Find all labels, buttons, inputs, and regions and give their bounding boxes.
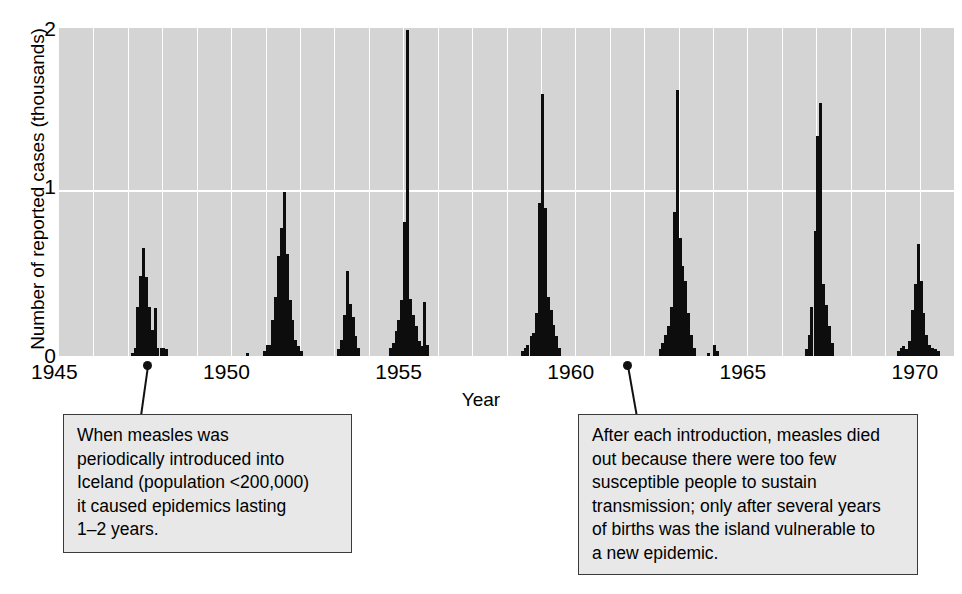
- gridline-year-1961: [610, 28, 611, 356]
- gridline-year-1946: [93, 28, 94, 356]
- measles-epidemic-chart: 2 1 0 Number of reported cases (thousand…: [0, 0, 962, 594]
- bar: [707, 353, 710, 356]
- gridline-year-1965: [747, 28, 748, 356]
- x-tick-1955: 1955: [375, 361, 422, 383]
- annotation-right: After each introduction, measles died ou…: [578, 414, 918, 575]
- gridline-year-1950: [231, 28, 232, 356]
- x-tick-1960: 1960: [547, 361, 594, 383]
- gridline-year-1948: [162, 28, 163, 356]
- bar: [357, 348, 360, 356]
- gridline-year-1951: [266, 28, 267, 356]
- gridline-year-1953: [334, 28, 335, 356]
- annotation-left: When measles was periodically introduced…: [63, 414, 352, 553]
- bar: [693, 348, 696, 356]
- gridline-year-1968: [851, 28, 852, 356]
- gridline-year-1962: [644, 28, 645, 356]
- gridline-year-1960: [575, 28, 576, 356]
- gridline-year-1964: [713, 28, 714, 356]
- gridline-year-1957: [472, 28, 473, 356]
- y-axis-label: Number of reported cases (thousands): [27, 0, 49, 379]
- gridline-year-1969: [885, 28, 886, 356]
- gridline-year-1949: [197, 28, 198, 356]
- x-tick-1965: 1965: [719, 361, 766, 383]
- gridline-year-1956: [438, 28, 439, 356]
- gridline-year-1947: [128, 28, 129, 356]
- bar: [558, 348, 561, 356]
- gridline-year-1966: [782, 28, 783, 356]
- bar: [300, 351, 303, 356]
- bar: [937, 351, 940, 356]
- plot-area: [59, 28, 954, 356]
- bar: [165, 349, 168, 356]
- gridline-year-1952: [300, 28, 301, 356]
- bar: [716, 351, 719, 356]
- bar: [246, 353, 249, 356]
- x-tick-1970: 1970: [892, 361, 939, 383]
- gridline-year-1958: [507, 28, 508, 356]
- bar: [426, 345, 429, 356]
- x-tick-1950: 1950: [203, 361, 250, 383]
- gridline-year-1954: [369, 28, 370, 356]
- bar: [831, 343, 834, 356]
- x-tick-1945: 1945: [31, 361, 78, 383]
